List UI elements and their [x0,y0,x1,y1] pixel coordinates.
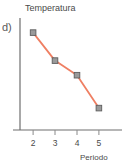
data-line [33,33,99,109]
x-tick-label: 3 [48,139,62,148]
data-point-marker [74,72,80,78]
x-axis-ticks [33,130,99,135]
data-point-marker [96,105,102,111]
line-chart-plot [0,0,125,166]
x-tick-label: 2 [26,139,40,148]
x-tick-label: 5 [92,139,106,148]
data-point-marker [52,58,58,64]
data-point-marker [30,30,36,36]
x-axis-title: Periodo [80,153,108,162]
x-tick-label: 4 [70,139,84,148]
chart-figure: d) Temperatura 2 3 4 5 Periodo [0,0,125,166]
